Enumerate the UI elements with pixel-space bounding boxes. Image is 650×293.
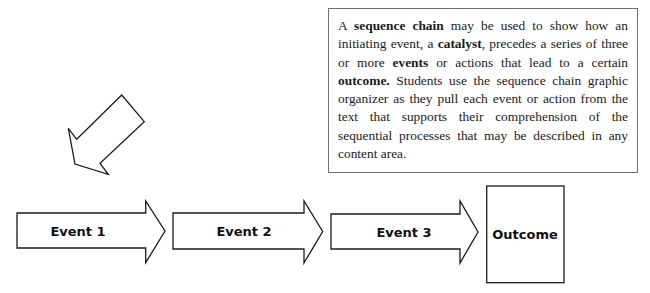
description-keyword: sequence chain [354, 18, 444, 33]
outcome-label: Outcome [492, 227, 558, 242]
description-keyword: outcome. [338, 73, 390, 88]
event-1-label: Event 1 [50, 224, 105, 239]
description-fragment: A [338, 18, 354, 33]
sequence-chain-diagram: Event 1 Event 2 Event 3 Outcome A sequen… [0, 0, 650, 293]
description-box: A sequence chain may be used to show how… [328, 8, 638, 173]
event-2-label: Event 2 [216, 224, 271, 239]
description-fragment: or actions that lead to a certain [428, 55, 628, 70]
event-3-label: Event 3 [376, 225, 431, 240]
catalyst-arrow-icon [68, 95, 144, 174]
description-text: A sequence chain may be used to show how… [338, 18, 628, 161]
description-keyword: catalyst [438, 36, 482, 51]
description-keyword: events [393, 55, 429, 70]
